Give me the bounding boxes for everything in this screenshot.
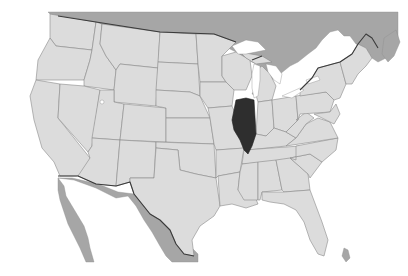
state-iowa	[200, 82, 234, 108]
state-colorado	[120, 104, 166, 142]
state-north-dakota	[158, 32, 198, 64]
state-mississippi	[238, 162, 258, 200]
map-canvas	[0, 0, 408, 276]
state-kansas	[166, 118, 214, 144]
state-wyoming	[114, 64, 158, 106]
great-salt-lake	[100, 100, 104, 104]
locator-map: Illinois locator map	[0, 0, 408, 276]
